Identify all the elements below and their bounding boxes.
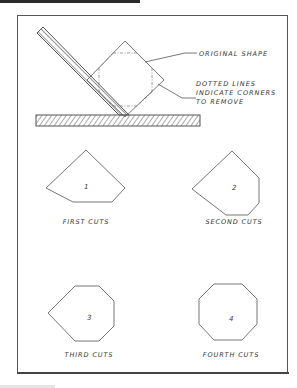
step-number-2: 2 [232,184,236,192]
label-dotted-lines-3: TO REMOVE [196,98,244,106]
shape-fourth-cuts [199,284,257,340]
label-dotted-lines-1: DOTTED LINES [196,80,256,88]
step-number-1: 1 [84,183,88,191]
slanted-guide-bar [37,27,129,115]
shape-second-cuts [192,151,259,215]
caption-third-cuts: THIRD CUTS [65,351,114,359]
step-number-4: 4 [229,315,233,323]
original-shape [87,41,164,117]
caption-fourth-cuts: FOURTH CUTS [203,351,259,359]
shape-third-cuts [48,286,114,341]
caption-second-cuts: SECOND CUTS [205,218,262,226]
bench-block [36,115,200,126]
shape-first-cuts [46,150,125,202]
step-number-3: 3 [87,314,91,322]
leader-lines [145,53,197,98]
diagram-drawing [0,0,297,388]
caption-first-cuts: FIRST CUTS [63,218,110,226]
label-original-shape: ORIGINAL SHAPE [199,50,268,58]
label-dotted-lines-2: INDICATE CORNERS [196,89,276,97]
